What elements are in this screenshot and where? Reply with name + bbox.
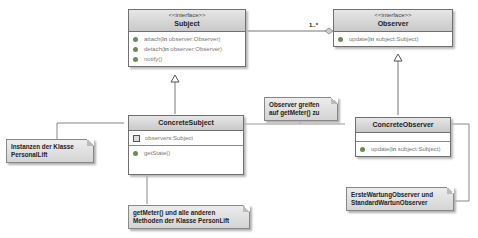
public-operation-icon: [360, 147, 365, 152]
class-header: ConcreteObserver: [356, 118, 450, 133]
operations-section: update(in subject:Subject): [356, 142, 450, 156]
public-operation-icon: [133, 151, 138, 156]
attributes-section: observers:Subject: [129, 131, 243, 146]
association-multiplicity: 1..*: [309, 22, 318, 28]
class-name: Observer: [334, 19, 452, 31]
operation-update[interactable]: update(in subject:Subject): [360, 144, 446, 154]
public-operation-icon: [133, 57, 138, 62]
note-observers[interactable]: ErsteWartungObserver und StandardWartunO…: [346, 187, 454, 211]
operation-getstate[interactable]: getState(): [133, 148, 239, 158]
public-operation-icon: [133, 37, 138, 42]
public-operation-icon: [133, 47, 138, 52]
class-concrete-observer[interactable]: ConcreteObserver update(in subject:Subje…: [355, 117, 451, 157]
private-attribute-lock-icon: [133, 135, 140, 142]
operation-notify[interactable]: notify(): [133, 54, 241, 64]
stereotype: <<interface>>: [334, 10, 452, 19]
operations-section: update(in subject:Subject): [334, 32, 452, 46]
class-concrete-subject[interactable]: ConcreteSubject observers:Subject getSta…: [128, 115, 244, 175]
note-observer-access[interactable]: Observer greifen auf getMeter() zu: [264, 97, 338, 121]
class-header: <<interface>> Observer: [334, 10, 452, 32]
operations-section: attach(in observer:Observer) detach(in o…: [129, 32, 245, 66]
association-end-diamond: [325, 28, 333, 34]
public-operation-icon: [338, 37, 343, 42]
class-name: ConcreteSubject: [129, 116, 243, 130]
attributes-section: [356, 133, 450, 142]
operation-attach[interactable]: attach(in observer:Observer): [133, 34, 241, 44]
note-methods[interactable]: getMeter() und alle anderen Methoden der…: [128, 205, 250, 229]
operation-detach[interactable]: detach(in observer:Observer): [133, 44, 241, 54]
stereotype: <<interface>>: [129, 10, 245, 19]
operation-update[interactable]: update(in subject:Subject): [338, 34, 448, 44]
class-header: <<interface>> Subject: [129, 10, 245, 32]
realization-arrow-observer: [394, 54, 402, 61]
attribute-observers[interactable]: observers:Subject: [133, 133, 239, 143]
class-name: Subject: [129, 19, 245, 31]
class-subject[interactable]: <<interface>> Subject attach(in observer…: [128, 9, 246, 67]
class-header: ConcreteSubject: [129, 116, 243, 131]
class-name: ConcreteObserver: [356, 118, 450, 132]
operations-section: getState(): [129, 146, 243, 160]
realization-arrow-subject: [171, 75, 179, 82]
note-instances[interactable]: Instanzen der Klasse PersonalLift: [6, 139, 94, 163]
class-observer[interactable]: <<interface>> Observer update(in subject…: [333, 9, 453, 47]
